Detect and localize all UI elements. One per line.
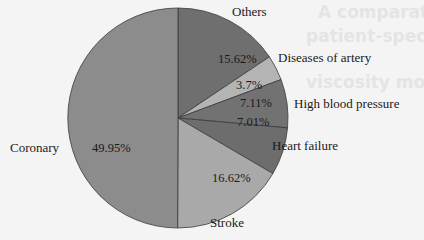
slice-category-label: High blood pressure <box>294 96 400 111</box>
slice-value-label: 49.95% <box>92 141 131 155</box>
slice-value-label: 7.01% <box>237 115 269 129</box>
slice-category-label: Others <box>232 4 267 19</box>
pie-chart: 15.62%Others3.7%Diseases of artery7.11%H… <box>0 0 424 240</box>
slice-value-label: 16.62% <box>212 171 251 185</box>
slice-category-label: Stroke <box>210 215 244 230</box>
slice-category-label: Diseases of artery <box>278 50 372 65</box>
slice-value-label: 7.11% <box>240 96 272 110</box>
slice-category-label: Coronary <box>10 140 60 155</box>
slice-category-label: Heart failure <box>272 138 338 153</box>
pie-slice-coronary <box>68 8 178 228</box>
slice-value-label: 3.7% <box>236 78 262 92</box>
slice-value-label: 15.62% <box>218 52 257 66</box>
